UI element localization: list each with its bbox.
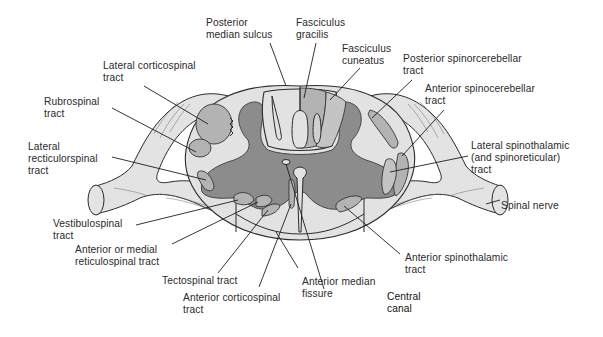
lateral-corticospinal-tract <box>196 104 232 144</box>
left-nerve-cut-end <box>88 185 104 215</box>
label-lateral-spinothalamic: Lateral spinothalamic (and spinoreticula… <box>471 140 572 175</box>
label-fasciculus-cuneatus: Fasciculus cuneatus <box>342 43 394 66</box>
rubrospinal-tract <box>189 139 211 157</box>
label-tectospinal: Tectospinal tract <box>162 275 237 286</box>
label-posterior-median-sulcus: Posterior median sulcus <box>206 17 272 40</box>
label-spinal-nerve: Spinal nerve <box>501 200 559 211</box>
spinal-cord-diagram: Posterior median sulcus Fasciculus graci… <box>0 0 603 337</box>
label-anterior-corticospinal: Anterior corticospinal tract <box>183 292 283 315</box>
label-rubrospinal: Rubrospinal tract <box>44 96 102 119</box>
label-posterior-spinocerebellar: Posterior spinorcerebellar tract <box>403 53 525 76</box>
label-anterior-medial-reticulospinal: Anterior or medial reticulospinal tract <box>75 244 160 267</box>
label-vestibulospinal: Vestibulospinal tract <box>53 218 125 241</box>
label-anterior-spinocerebellar: Anterior spinocerebellar tract <box>425 83 538 106</box>
central-canal <box>282 160 290 165</box>
label-anterior-spinothalamic: Anterior spinothalamic tract <box>405 252 511 275</box>
label-lateral-reticulospinal: Lateral recticulorspinal tract <box>28 141 100 176</box>
label-central-canal: Central canal <box>387 291 423 314</box>
label-lateral-corticospinal: Lateral corticospinal tract <box>103 60 199 83</box>
label-anterior-median-fissure: Anterior median fissure <box>302 276 378 299</box>
label-fasciculus-gracilis: Fasciculus gracilis <box>296 17 348 40</box>
